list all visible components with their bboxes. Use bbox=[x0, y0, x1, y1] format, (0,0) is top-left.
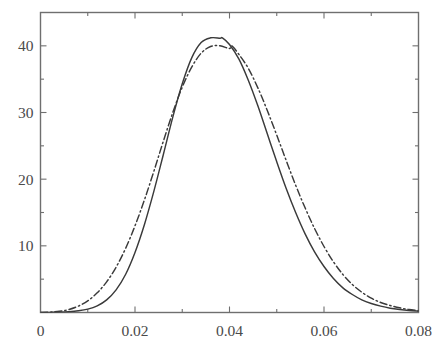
figure-background bbox=[0, 0, 435, 355]
x-tick-label: 0.04 bbox=[216, 322, 243, 339]
y-tick-label: 40 bbox=[18, 37, 34, 54]
y-tick-label: 30 bbox=[18, 104, 34, 121]
y-tick-label: 20 bbox=[18, 171, 34, 188]
x-tick-label: 0.06 bbox=[310, 322, 337, 339]
y-tick-label: 10 bbox=[18, 237, 34, 254]
figure-container: 00.020.040.060.08 10203040 bbox=[0, 0, 435, 355]
plot-svg: 00.020.040.060.08 10203040 bbox=[0, 0, 435, 355]
x-tick-label: 0 bbox=[37, 322, 45, 339]
x-tick-label: 0.02 bbox=[121, 322, 148, 339]
x-tick-label: 0.08 bbox=[405, 322, 432, 339]
